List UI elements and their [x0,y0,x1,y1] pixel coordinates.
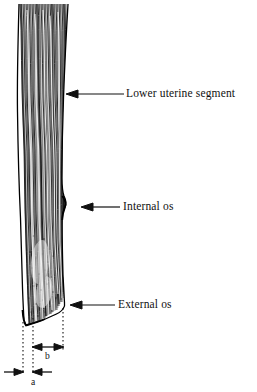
anatomical-figure: Lower uterine segment Internal os Extern… [0,0,257,392]
arrow-lower-uterine-segment [66,90,124,98]
dimension-arrow-a [4,369,52,376]
arrow-internal-os [81,203,120,211]
callout-arrows [66,90,124,309]
figure-canvas [0,0,257,392]
dimension-label-a: a [31,378,35,388]
dimension-label-b: b [45,352,50,362]
dimension-arrow-b [32,344,64,351]
specimen-drawing [14,0,72,330]
callout-label-lower-uterine-segment: Lower uterine segment [126,88,235,100]
callout-label-internal-os: Internal os [123,201,174,213]
callout-label-external-os: External os [118,299,172,311]
arrow-external-os [70,301,115,309]
